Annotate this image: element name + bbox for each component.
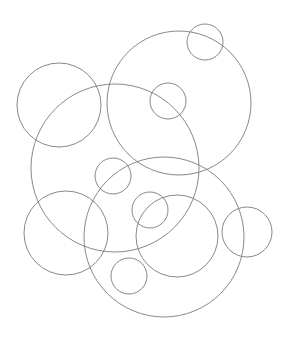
- circle-3: [150, 83, 186, 119]
- circle-1: [107, 31, 251, 175]
- circle-10: [222, 207, 272, 257]
- circle-9: [136, 195, 218, 277]
- circle-8: [24, 191, 108, 275]
- circle-11: [111, 258, 147, 294]
- circles-diagram: [0, 0, 286, 344]
- circle-4: [31, 84, 199, 252]
